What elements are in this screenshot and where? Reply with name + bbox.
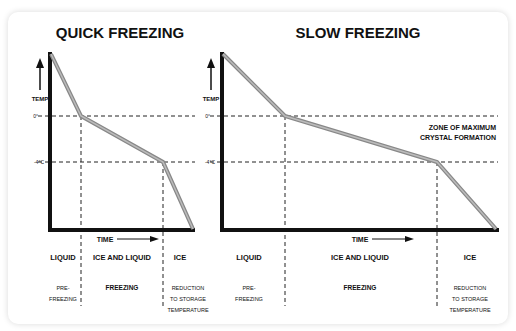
phase-ice: ICE: [174, 253, 187, 262]
temp-label: TEMP: [203, 96, 220, 102]
slow-title: SLOW FREEZING: [296, 24, 421, 41]
quick-title: QUICK FREEZING: [56, 24, 184, 41]
slow-freezing-chart: SLOW FREEZING TEMP 0° -4°C ZONE OF MAXIM…: [203, 24, 499, 313]
arrow-up-icon: [36, 58, 44, 68]
stage-pre-2: FREEZING: [49, 296, 77, 302]
stage-reduction: REDUCTION: [454, 285, 487, 291]
temp-label: TEMP: [32, 96, 49, 102]
stage-reduction-3: TEMPERATURE: [449, 307, 490, 313]
phase-ice-liquid: ICE AND LIQUID: [331, 253, 390, 262]
stage-freezing: FREEZING: [106, 284, 139, 291]
stage-reduction-3: TEMPERATURE: [167, 307, 208, 313]
stage-reduction-2: TO STORAGE: [170, 296, 206, 302]
time-label: TIME: [352, 236, 369, 243]
stage-freezing: FREEZING: [344, 284, 377, 291]
arrow-right-icon: [150, 236, 159, 242]
zone-annotation: ZONE OF MAXIMUM: [429, 124, 496, 131]
stage-pre: PRE-: [56, 285, 69, 291]
stage-reduction: REDUCTION: [172, 285, 205, 291]
stage-reduction-2: TO STORAGE: [452, 296, 488, 302]
freezing-diagram: QUICK FREEZING TEMP 0° -4°C TIME LIQUID …: [0, 0, 516, 331]
quick-freezing-chart: QUICK FREEZING TEMP 0° -4°C TIME LIQUID …: [32, 24, 209, 313]
phase-liquid: LIQUID: [236, 253, 262, 262]
phase-ice: ICE: [464, 253, 477, 262]
stage-pre: PRE-: [242, 285, 255, 291]
zero-label: 0°: [33, 113, 38, 119]
phase-ice-liquid: ICE AND LIQUID: [93, 253, 152, 262]
phase-liquid: LIQUID: [50, 253, 76, 262]
stage-pre-2: FREEZING: [235, 296, 263, 302]
zone-annotation-2: CRYSTAL FORMATION: [420, 134, 496, 141]
zero-label: 0°: [205, 113, 210, 119]
arrow-up-icon: [207, 58, 215, 68]
time-label: TIME: [97, 236, 114, 243]
arrow-right-icon: [405, 236, 414, 242]
